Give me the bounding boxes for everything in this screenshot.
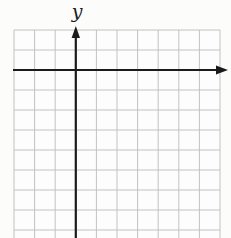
y-axis-label: y	[66, 0, 88, 23]
coordinate-grid	[0, 0, 231, 238]
coordinate-plane-figure: y	[0, 0, 231, 238]
x-axis-arrowhead-icon	[216, 65, 228, 74]
